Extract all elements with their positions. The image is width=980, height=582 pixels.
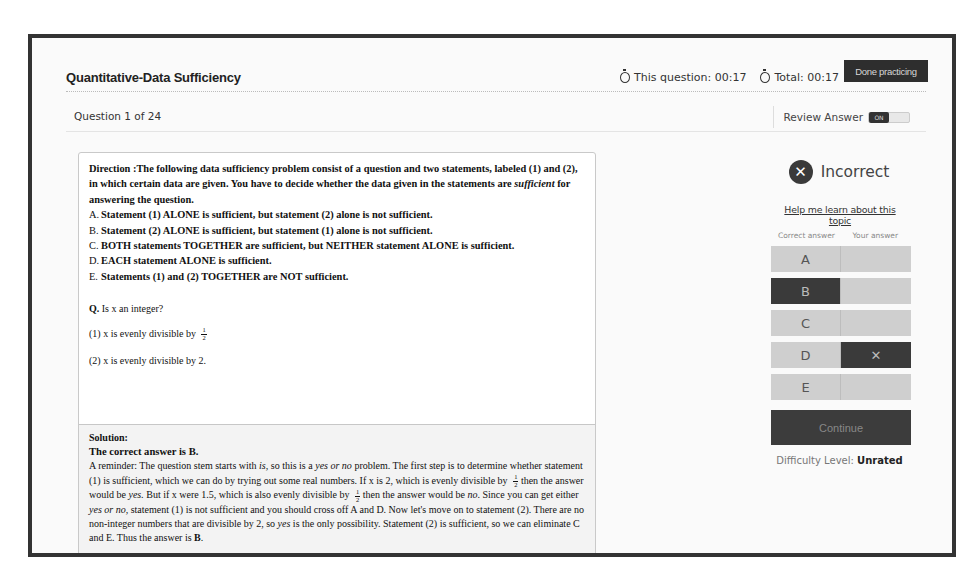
answer-option-c: C.BOTH statements TOGETHER are sufficien… bbox=[89, 238, 585, 253]
your-answer-cell-selected: ✕ bbox=[841, 342, 911, 368]
solution-explanation: A reminder: The question stem starts wit… bbox=[89, 459, 585, 545]
your-answer-cell bbox=[841, 246, 911, 272]
statement-1: (1) x is evenly divisible by 12 bbox=[89, 326, 585, 342]
option-letter: D. bbox=[89, 253, 101, 268]
option-letter: E. bbox=[89, 269, 101, 284]
header-bar: Quantitative-Data Sufficiency This quest… bbox=[66, 64, 926, 92]
explanation-text: But if x were 1.5, which is also evenly … bbox=[144, 489, 352, 500]
explanation-emphasis: yes. bbox=[128, 489, 143, 500]
solution-section: Solution: The correct answer is B. A rem… bbox=[79, 424, 595, 557]
explanation-emphasis: yes bbox=[278, 518, 291, 529]
wrong-mark-icon: ✕ bbox=[871, 348, 882, 363]
question-timer: This question: 00:17 bbox=[620, 71, 746, 84]
question-counter: Question 1 of 24 bbox=[74, 110, 161, 122]
answer-row-a: A bbox=[771, 246, 911, 272]
question-stem: Q. Is x an integer? bbox=[89, 301, 585, 316]
answer-row-c: C bbox=[771, 310, 911, 336]
question-panel: Direction :The following data sufficienc… bbox=[78, 152, 596, 557]
toggle-on-indicator: ON bbox=[869, 112, 889, 123]
correct-answer-text: The correct answer is B. bbox=[89, 445, 585, 459]
explanation-emphasis: is, bbox=[259, 460, 268, 471]
explanation-emphasis: yes or no bbox=[315, 460, 352, 471]
answer-option-e: E.Statements (1) and (2) TOGETHER are NO… bbox=[89, 269, 585, 284]
your-answer-cell bbox=[841, 374, 911, 400]
explanation-text: so this is a bbox=[268, 460, 315, 471]
answer-option-d: D.EACH statement ALONE is sufficient. bbox=[89, 253, 585, 268]
explanation-answer: B bbox=[194, 532, 201, 543]
option-text: Statement (1) ALONE is sufficient, but s… bbox=[101, 207, 433, 222]
difficulty-label: Difficulty Level: bbox=[776, 455, 857, 466]
practice-window: Quantitative-Data Sufficiency This quest… bbox=[28, 34, 956, 557]
option-letter: C. bbox=[89, 238, 101, 253]
explanation-text: A reminder: The question stem starts wit… bbox=[89, 460, 259, 471]
verdict-text: Incorrect bbox=[821, 163, 890, 181]
correct-answer-cell: E bbox=[771, 374, 841, 400]
fraction-denominator: 2 bbox=[202, 335, 205, 342]
result-verdict: ✕ Incorrect bbox=[770, 160, 908, 184]
review-answer-toggle[interactable]: ON bbox=[868, 112, 910, 123]
explanation-emphasis: yes or no, bbox=[89, 504, 128, 515]
help-learn-topic-link[interactable]: Help me learn about this topic bbox=[772, 204, 908, 226]
option-text: BOTH statements TOGETHER are sufficient,… bbox=[101, 238, 514, 253]
incorrect-x-icon: ✕ bbox=[789, 160, 813, 184]
answer-option-a: A.Statement (1) ALONE is sufficient, but… bbox=[89, 207, 585, 222]
option-text: Statements (1) and (2) TOGETHER are NOT … bbox=[101, 269, 348, 284]
directions: Direction :The following data sufficienc… bbox=[89, 161, 585, 207]
your-answer-cell bbox=[841, 310, 911, 336]
question-text: Is x an integer? bbox=[99, 303, 163, 314]
timers: This question: 00:17 Total: 00:17 bbox=[620, 71, 839, 84]
result-panel: ✕ Incorrect Help me learn about this top… bbox=[768, 160, 908, 466]
your-answer-header: Your answer bbox=[853, 231, 898, 240]
correct-answer-cell: A bbox=[771, 246, 841, 272]
correct-answer-cell-selected: B bbox=[771, 278, 841, 304]
explanation-text: . bbox=[201, 532, 204, 543]
solution-title: Solution: bbox=[89, 431, 585, 445]
explanation-text: . Since you can get either bbox=[478, 489, 579, 500]
stopwatch-icon bbox=[760, 72, 770, 83]
answer-row-e: E bbox=[771, 374, 911, 400]
total-timer-label: Total: 00:17 bbox=[774, 71, 839, 84]
answer-option-b: B.Statement (2) ALONE is sufficient, but… bbox=[89, 223, 585, 238]
directions-text: Direction :The following data sufficienc… bbox=[89, 163, 578, 189]
review-answer-control: Review Answer ON bbox=[773, 106, 910, 128]
done-practicing-button[interactable]: Done practicing bbox=[844, 60, 928, 82]
question-bar: Question 1 of 24 Review Answer ON bbox=[66, 104, 926, 132]
fraction-denominator: 2 bbox=[356, 497, 359, 504]
option-text: Statement (2) ALONE is sufficient, but s… bbox=[101, 223, 433, 238]
your-answer-cell bbox=[841, 278, 911, 304]
question-timer-label: This question: 00:17 bbox=[634, 71, 746, 84]
correct-answer-header: Correct answer bbox=[778, 231, 835, 240]
fraction-denominator: 2 bbox=[514, 482, 517, 489]
fraction-one-half: 12 bbox=[201, 327, 206, 341]
section-title: Quantitative-Data Sufficiency bbox=[66, 70, 241, 85]
answer-row-d: D ✕ bbox=[771, 342, 911, 368]
correct-answer-cell: C bbox=[771, 310, 841, 336]
answer-comparison-grid: A B C D ✕ E bbox=[771, 246, 911, 400]
total-timer: Total: 00:17 bbox=[760, 71, 839, 84]
correct-answer-cell: D bbox=[771, 342, 841, 368]
continue-button[interactable]: Continue bbox=[771, 410, 911, 445]
answer-column-headers: Correct answer Your answer bbox=[768, 231, 908, 240]
difficulty-level: Difficulty Level: Unrated bbox=[771, 455, 908, 466]
explanation-emphasis: no bbox=[468, 489, 478, 500]
explanation-text: then the answer would be bbox=[360, 489, 467, 500]
question-label: Q. bbox=[89, 303, 99, 314]
option-text: EACH statement ALONE is sufficient. bbox=[101, 253, 272, 268]
review-answer-label: Review Answer bbox=[784, 111, 863, 123]
answer-row-b: B bbox=[771, 278, 911, 304]
directions-emphasis: sufficient bbox=[514, 178, 554, 189]
statement-2: (2) x is evenly divisible by 2. bbox=[89, 353, 585, 368]
difficulty-value: Unrated bbox=[857, 455, 903, 466]
statement-1-text: (1) x is evenly divisible by bbox=[89, 328, 196, 339]
option-letter: B. bbox=[89, 223, 101, 238]
option-letter: A. bbox=[89, 207, 101, 222]
stopwatch-icon bbox=[620, 72, 630, 83]
